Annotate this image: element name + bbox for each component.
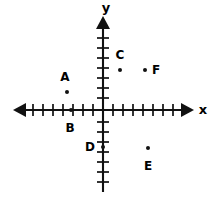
point-label-d: D	[85, 141, 95, 153]
point-label-f: F	[152, 64, 160, 76]
data-point-e	[146, 146, 150, 150]
data-point-d	[101, 145, 105, 149]
axes-and-ticks	[0, 0, 217, 199]
point-label-b: B	[65, 122, 74, 134]
point-label-c: C	[116, 49, 125, 61]
axis-lines	[20, 28, 187, 192]
data-point-f	[143, 68, 147, 72]
x-axis-left-arrowhead	[13, 103, 26, 117]
point-label-e: E	[144, 160, 152, 172]
coordinate-plane-figure: x y ABCDEF	[0, 0, 217, 199]
x-axis-right-arrowhead	[181, 103, 194, 117]
data-point-b	[69, 108, 73, 112]
point-label-a: A	[60, 71, 69, 83]
y-axis-label: y	[102, 1, 110, 14]
x-axis-label: x	[199, 103, 207, 116]
data-point-a	[65, 90, 69, 94]
data-point-c	[118, 68, 122, 72]
y-axis-up-arrowhead	[96, 16, 110, 29]
